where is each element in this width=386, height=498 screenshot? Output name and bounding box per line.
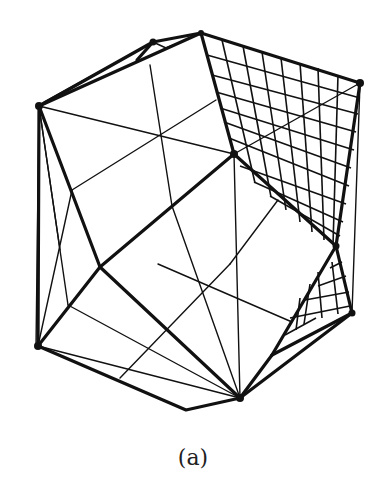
- polyhedron-wireframe: [0, 0, 386, 498]
- figure-caption: (a): [0, 445, 386, 470]
- grid-face-lower-right: [285, 262, 350, 335]
